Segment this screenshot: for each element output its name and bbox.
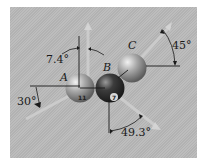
ball-label-c: C (128, 40, 136, 51)
collision-diagram: 11 7 (0, 0, 205, 165)
angle-label-a-vertical: 7.4° (46, 54, 69, 65)
ball-c (118, 54, 147, 83)
arrow-b-prime (118, 96, 157, 127)
ball-label-b: B (103, 62, 111, 73)
angle-label-c-horizontal: 45° (172, 40, 192, 51)
ball-label-a: A (60, 72, 68, 83)
angle-label-a-horizontal: 30° (17, 96, 37, 107)
velocity-arrows (26, 26, 170, 127)
angle-label-b-vertical: 49.3° (121, 127, 151, 138)
ball-b-number: 7 (112, 94, 116, 101)
ball-a-number: 11 (78, 94, 86, 101)
